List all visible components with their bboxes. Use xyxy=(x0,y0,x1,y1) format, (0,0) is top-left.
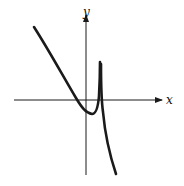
curve-right-branch xyxy=(101,64,116,174)
curve-left-branch xyxy=(34,27,100,114)
y-axis-label: y xyxy=(82,5,90,19)
graph-canvas: y x xyxy=(0,0,184,186)
x-axis-label: x xyxy=(166,93,173,107)
